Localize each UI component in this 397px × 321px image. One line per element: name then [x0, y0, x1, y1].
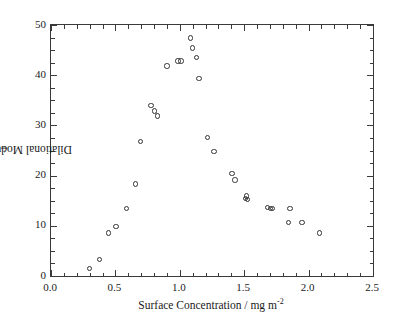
x-axis-title-base: Surface Concentration / mg m [138, 299, 277, 311]
x-axis-tick-label: 0.5 [94, 282, 134, 293]
data-point [317, 230, 322, 235]
y-axis-minor-tick [51, 138, 55, 139]
x-axis-minor-tick [231, 273, 232, 277]
x-axis-major-tick [309, 270, 310, 276]
x-axis-minor-tick [321, 273, 322, 277]
x-axis-major-tick [373, 270, 374, 276]
y-axis-major-tick [51, 276, 57, 277]
right-axis-minor-tick [370, 88, 374, 89]
top-axis-minor-tick [360, 25, 361, 29]
right-axis-major-tick [367, 176, 373, 177]
data-point [205, 135, 210, 140]
top-axis-minor-tick [128, 25, 129, 29]
plot-area [50, 24, 374, 277]
y-axis-minor-tick [51, 263, 55, 264]
x-axis-title: Surface Concentration / mg m-2 [50, 299, 372, 312]
right-axis-minor-tick [370, 238, 374, 239]
data-point [106, 230, 111, 235]
top-axis-minor-tick [141, 25, 142, 29]
data-point [138, 139, 143, 144]
y-axis-minor-tick [51, 188, 55, 189]
right-axis-major-tick [367, 25, 373, 26]
data-point [164, 63, 169, 68]
y-axis-title-base: Dilational Modulus / mN m [0, 143, 93, 156]
right-axis-minor-tick [370, 138, 374, 139]
top-axis-minor-tick [270, 25, 271, 29]
top-axis-minor-tick [321, 25, 322, 29]
y-axis-major-tick [51, 25, 57, 26]
top-axis-major-tick [309, 25, 310, 31]
top-axis-minor-tick [206, 25, 207, 29]
right-axis-minor-tick [370, 38, 374, 39]
data-point [87, 266, 92, 271]
right-axis-major-tick [367, 125, 373, 126]
y-axis-minor-tick [51, 213, 55, 214]
x-axis-minor-tick [77, 273, 78, 277]
y-axis-minor-tick [51, 88, 55, 89]
y-axis-minor-tick [51, 38, 55, 39]
x-axis-major-tick [180, 270, 181, 276]
right-axis-minor-tick [370, 63, 374, 64]
x-axis-minor-tick [141, 273, 142, 277]
x-axis-tick-label: 0.0 [30, 282, 70, 293]
y-axis-minor-tick [51, 251, 55, 252]
right-axis-major-tick [367, 276, 373, 277]
y-axis-tick-label: 0 [12, 270, 46, 281]
x-axis-minor-tick [334, 273, 335, 277]
scatter-chart-figure: Surface Concentration / mg m-2 Dilationa… [0, 0, 397, 321]
top-axis-minor-tick [154, 25, 155, 29]
y-axis-minor-tick [51, 163, 55, 164]
right-axis-minor-tick [370, 100, 374, 101]
top-axis-minor-tick [77, 25, 78, 29]
right-axis-minor-tick [370, 263, 374, 264]
top-axis-major-tick [373, 25, 374, 31]
y-axis-tick-label: 50 [12, 19, 46, 30]
right-axis-minor-tick [370, 251, 374, 252]
top-axis-minor-tick [64, 25, 65, 29]
y-axis-tick-label: 10 [12, 219, 46, 230]
data-point [232, 177, 237, 182]
right-axis-minor-tick [370, 151, 374, 152]
x-axis-title-exponent: -2 [277, 297, 284, 306]
y-axis-minor-tick [51, 201, 55, 202]
top-axis-major-tick [244, 25, 245, 31]
top-axis-minor-tick [283, 25, 284, 29]
x-axis-minor-tick [270, 273, 271, 277]
data-point [178, 58, 183, 63]
top-axis-minor-tick [347, 25, 348, 29]
data-point [190, 45, 195, 50]
top-axis-minor-tick [193, 25, 194, 29]
x-axis-minor-tick [257, 273, 258, 277]
data-point [113, 224, 118, 229]
top-axis-minor-tick [167, 25, 168, 29]
y-axis-tick-label: 30 [12, 119, 46, 130]
data-point [97, 257, 102, 262]
top-axis-minor-tick [231, 25, 232, 29]
x-axis-minor-tick [360, 273, 361, 277]
y-axis-title-rotated: Dilational Modulus / mN m-1 [2, 64, 15, 234]
data-point [155, 113, 160, 118]
data-point [286, 220, 291, 225]
y-axis-minor-tick [51, 113, 55, 114]
x-axis-minor-tick [128, 273, 129, 277]
x-axis-minor-tick [154, 273, 155, 277]
top-axis-minor-tick [257, 25, 258, 29]
y-axis-tick-label: 20 [12, 169, 46, 180]
data-point [229, 171, 234, 176]
x-axis-minor-tick [103, 273, 104, 277]
right-axis-minor-tick [370, 163, 374, 164]
x-axis-tick-label: 1.5 [223, 282, 263, 293]
data-point [211, 149, 216, 154]
x-axis-minor-tick [90, 273, 91, 277]
top-axis-major-tick [115, 25, 116, 31]
y-axis-minor-tick [51, 63, 55, 64]
right-axis-major-tick [367, 226, 373, 227]
x-axis-minor-tick [167, 273, 168, 277]
data-point [299, 220, 304, 225]
x-axis-minor-tick [206, 273, 207, 277]
right-axis-minor-tick [370, 201, 374, 202]
right-axis-minor-tick [370, 113, 374, 114]
x-axis-minor-tick [193, 273, 194, 277]
right-axis-minor-tick [370, 188, 374, 189]
data-point [188, 35, 193, 40]
